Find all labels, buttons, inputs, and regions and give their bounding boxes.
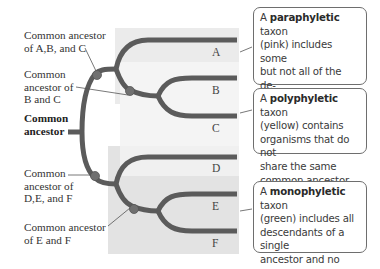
node-abc bbox=[93, 71, 102, 80]
polyphyletic-shade-lower bbox=[120, 146, 239, 176]
taxon-e: E bbox=[212, 200, 219, 212]
term-polyphyletic: polyphyletic bbox=[270, 93, 338, 104]
leader-para bbox=[240, 47, 252, 52]
taxon-f: F bbox=[212, 237, 218, 249]
callout-monophyletic: A monophyletic taxon (green) includes al… bbox=[253, 181, 367, 253]
term-paraphyletic: paraphyletic bbox=[270, 12, 340, 23]
callout-polyphyletic: A polyphyletic taxon (yellow) contains o… bbox=[253, 88, 367, 154]
callout-paraphyletic: A paraphyletic taxon (pink) includes som… bbox=[253, 7, 367, 85]
label-ancestor-abc: Common ancestor of A,B, and C bbox=[24, 29, 106, 54]
taxon-a: A bbox=[212, 46, 220, 58]
taxon-d: D bbox=[212, 162, 220, 174]
node-def bbox=[91, 172, 100, 181]
label-ancestor-def: Common ancestor of D,E, and F bbox=[24, 167, 73, 205]
label-ancestor-bc: Common ancestor of B and C bbox=[24, 68, 73, 106]
node-bc bbox=[126, 87, 135, 96]
label-ancestor-ef: Common ancestor of E and F bbox=[24, 221, 106, 246]
leader-poly bbox=[240, 110, 252, 113]
taxon-c: C bbox=[212, 122, 220, 134]
term-monophyletic: monophyletic bbox=[270, 186, 345, 197]
label-common-ancestor-root: Common ancestor bbox=[24, 112, 68, 137]
node-ef bbox=[130, 205, 139, 214]
taxon-b: B bbox=[212, 84, 220, 96]
leader-mono bbox=[240, 209, 252, 211]
